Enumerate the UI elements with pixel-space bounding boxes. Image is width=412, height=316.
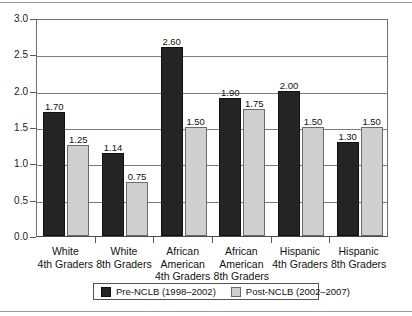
bar-value-label: 2.00 xyxy=(273,81,305,91)
bar xyxy=(185,127,207,236)
page-rule-top xyxy=(0,2,412,3)
bar xyxy=(67,145,89,236)
y-axis-tick xyxy=(30,164,36,165)
bar xyxy=(126,182,148,237)
bar-value-label: 1.50 xyxy=(180,117,212,127)
chart-legend: Pre-NCLB (1998–2002) Post-NCLB (2002–200… xyxy=(93,283,319,300)
y-axis-tick xyxy=(30,19,36,20)
gridline xyxy=(37,93,387,94)
legend-item-post-nclb: Post-NCLB (2002–2007) xyxy=(231,286,350,297)
plot-area: 1.701.251.140.752.601.501.901.752.001.50… xyxy=(36,19,388,237)
bar-value-label: 1.50 xyxy=(297,117,329,127)
y-axis-tick-label: 2.5 xyxy=(2,50,28,60)
x-axis-tick xyxy=(271,237,272,243)
y-axis-tick-label: 1.5 xyxy=(2,123,28,133)
x-axis-tick xyxy=(95,237,96,243)
y-axis-tick xyxy=(30,201,36,202)
bar-value-label: 1.75 xyxy=(238,99,270,109)
bar-value-label: 1.25 xyxy=(62,135,94,145)
bar xyxy=(337,142,359,236)
bar xyxy=(43,112,65,236)
bar xyxy=(278,91,300,236)
gridline xyxy=(37,165,387,166)
y-axis-tick xyxy=(30,55,36,56)
gridline xyxy=(37,129,387,130)
bar xyxy=(302,127,324,236)
bar-value-label: 2.60 xyxy=(156,37,188,47)
bar xyxy=(161,47,183,236)
bar xyxy=(102,153,124,236)
bar xyxy=(219,98,241,236)
bar-value-label: 1.14 xyxy=(97,143,129,153)
y-axis-tick xyxy=(30,128,36,129)
y-axis-tick-label: 3.0 xyxy=(2,14,28,24)
bar xyxy=(361,127,383,236)
y-axis-tick-label: 0.0 xyxy=(2,232,28,242)
bar-value-label: 1.30 xyxy=(332,132,364,142)
bar-value-label: 1.90 xyxy=(214,88,246,98)
page-rule-bottom xyxy=(0,311,412,312)
x-axis-tick xyxy=(329,237,330,243)
legend-item-pre-nclb: Pre-NCLB (1998–2002) xyxy=(101,286,216,297)
bar-value-label: 0.75 xyxy=(121,172,153,182)
x-axis-category-label: Hispanic 8th Graders xyxy=(323,245,394,270)
bar xyxy=(243,109,265,236)
legend-label-post-nclb: Post-NCLB (2002–2007) xyxy=(246,286,350,297)
gridline xyxy=(37,202,387,203)
legend-swatch-pre-nclb xyxy=(101,287,111,297)
bar-value-label: 1.50 xyxy=(356,117,388,127)
gridline xyxy=(37,56,387,57)
legend-label-pre-nclb: Pre-NCLB (1998–2002) xyxy=(116,286,216,297)
bar-chart-figure: 1.701.251.140.752.601.501.901.752.001.50… xyxy=(0,0,412,316)
y-axis-tick-label: 1.0 xyxy=(2,159,28,169)
y-axis-tick xyxy=(30,92,36,93)
y-axis-tick-label: 0.5 xyxy=(2,196,28,206)
x-axis-tick xyxy=(212,237,213,243)
y-axis-tick xyxy=(30,237,36,238)
y-axis-tick-label: 2.0 xyxy=(2,87,28,97)
bar-value-label: 1.70 xyxy=(38,102,70,112)
legend-swatch-post-nclb xyxy=(231,287,241,297)
x-axis-tick xyxy=(153,237,154,243)
